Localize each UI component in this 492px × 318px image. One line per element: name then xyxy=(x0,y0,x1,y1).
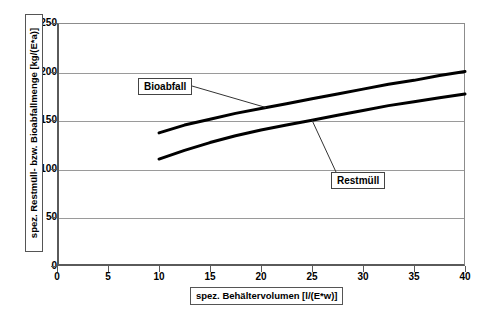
x-tick-label-40: 40 xyxy=(450,272,480,282)
series-label-restmuell: Restmüll xyxy=(331,172,385,189)
y-tick-mark-100 xyxy=(51,169,57,170)
x-tick-label-10: 10 xyxy=(144,272,174,282)
x-tick-label-0: 0 xyxy=(42,272,72,282)
y-tick-mark-250 xyxy=(51,23,57,24)
y-axis-title: spez. Restmüll- bzw. Bioabfallmenge [kg/… xyxy=(25,14,43,252)
series-label-bioabfall: Bioabfall xyxy=(138,78,192,95)
gridline-150 xyxy=(59,121,464,122)
y-tick-mark-200 xyxy=(51,72,57,73)
y-tick-mark-50 xyxy=(51,217,57,218)
gridline-100 xyxy=(59,170,464,171)
x-tick-label-35: 35 xyxy=(399,272,429,282)
x-axis-title: spez. Behältervolumen [l/(E*w)] xyxy=(190,287,343,305)
chart-container: 250 200 150 100 50 0 spez. Restmüll- bzw… xyxy=(0,0,492,318)
x-tick-label-30: 30 xyxy=(348,272,378,282)
y-axis: 250 200 150 100 50 0 spez. Restmüll- bzw… xyxy=(0,0,57,318)
x-tick-label-25: 25 xyxy=(297,272,327,282)
x-tick-label-20: 20 xyxy=(246,272,276,282)
x-tick-label-15: 15 xyxy=(195,272,225,282)
gridline-200 xyxy=(59,73,464,74)
x-tick-label-5: 5 xyxy=(93,272,123,282)
gridline-50 xyxy=(59,218,464,219)
y-tick-mark-150 xyxy=(51,120,57,121)
plot-area xyxy=(57,23,465,266)
